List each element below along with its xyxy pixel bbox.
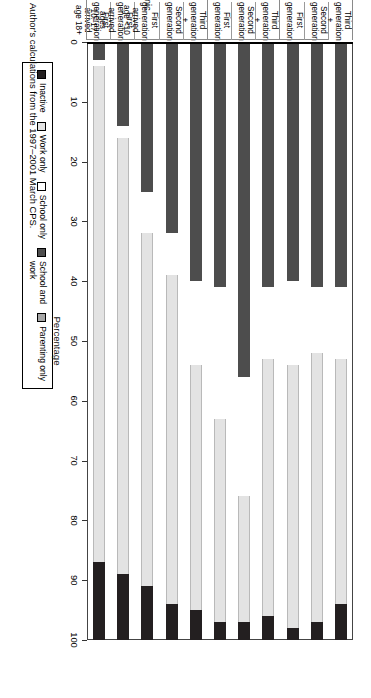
group-separator [207, 0, 208, 40]
category-label: Third generation + [257, 2, 279, 38]
bar-stack [287, 42, 299, 640]
category-rule [304, 2, 305, 40]
bar-segment-work [214, 419, 226, 622]
group-separator [279, 0, 280, 40]
group-separator [86, 0, 87, 40]
category-label: First generation [209, 2, 231, 38]
bar-stack [335, 42, 347, 640]
bar-segment-inactive [166, 604, 178, 640]
bar-segment-work [166, 275, 178, 604]
bar-segment-school [238, 377, 250, 497]
bar-segment-school [141, 192, 153, 234]
bar-stack [93, 42, 105, 640]
bar-segment-school [262, 287, 274, 359]
value-axis-tick [82, 341, 87, 342]
bar-segment-work [238, 496, 250, 622]
legend-label-schoolwork: School and work [28, 261, 47, 304]
value-axis-tick-label: 30 [69, 216, 80, 226]
bar-segment-school [335, 287, 347, 359]
bar-segment-schoolwork [262, 42, 274, 287]
bar-stack [166, 42, 178, 640]
value-axis-tick [82, 461, 87, 462]
bar-segment-inactive [141, 586, 153, 640]
bar-segment-school [117, 126, 129, 138]
value-axis-tick-label: 20 [69, 156, 80, 166]
value-axis-tick-label: 10 [69, 97, 80, 107]
bar-segment-inactive [93, 562, 105, 640]
bar-segment-inactive [117, 574, 129, 640]
value-axis-tick-label: 40 [69, 276, 80, 286]
bar-segment-schoolwork [141, 42, 153, 192]
legend-item-parenting: Parenting only [37, 313, 47, 381]
category-separator [208, 39, 232, 40]
category-label: First generation [281, 2, 303, 38]
value-axis-baseline [87, 42, 353, 44]
bar-segment-inactive [262, 616, 274, 640]
bar-stack [190, 42, 202, 640]
category-separator [256, 39, 280, 40]
bar-segment-schoolwork [117, 42, 129, 126]
bar-segment-inactive [190, 610, 202, 640]
category-separator [160, 39, 184, 40]
bar-segment-work [190, 365, 202, 610]
bar-segment-schoolwork [335, 42, 347, 287]
value-axis-tick-label: 100 [69, 632, 80, 648]
legend-swatch-parenting [37, 313, 46, 322]
group-separator [352, 0, 353, 40]
bar-segment-schoolwork [238, 42, 250, 377]
bar-segment-inactive [311, 622, 323, 640]
bar-segment-school [166, 233, 178, 275]
value-axis-tick [82, 520, 87, 521]
category-separator [135, 39, 159, 40]
bar-stack [141, 42, 153, 640]
legend-label-parenting: Parenting only [37, 326, 47, 381]
value-axis-tick-label: 90 [69, 575, 80, 585]
category-separator [280, 39, 304, 40]
bar-segment-school [287, 281, 299, 365]
value-axis-tick [82, 42, 87, 43]
category-separator [232, 39, 256, 40]
bar-segment-inactive [238, 622, 250, 640]
category-separator [111, 39, 135, 40]
bar-segment-work [287, 365, 299, 628]
value-axis-tick-label: 50 [69, 336, 80, 346]
bar-segment-schoolwork [311, 42, 323, 287]
category-rule [159, 2, 160, 40]
bar-segment-school [214, 287, 226, 419]
bar-stack [238, 42, 250, 640]
category-rule [231, 2, 232, 40]
category-label: Third generation + [330, 2, 352, 38]
bar-segment-work [117, 138, 129, 575]
bar-segment-inactive [214, 622, 226, 640]
value-axis-tick-label: 0 [69, 39, 80, 44]
value-axis-tick [82, 221, 87, 222]
bar-segment-schoolwork [190, 42, 202, 281]
bar-segment-schoolwork [93, 42, 105, 60]
bar-segment-schoolwork [287, 42, 299, 281]
bar-segment-inactive [287, 628, 299, 640]
value-axis-tick-label: 70 [69, 455, 80, 465]
figure-canvas: InactiveWork onlySchool onlySchool and w… [0, 0, 371, 698]
bar-stack [214, 42, 226, 640]
legend-item-schoolwork: School and work [28, 248, 47, 304]
bar-segment-schoolwork [166, 42, 178, 233]
bar-stack [311, 42, 323, 640]
value-axis-tick [82, 580, 87, 581]
bar-segment-work [262, 359, 274, 616]
source-note: SOURCES: Author's calculations from the … [28, 0, 39, 228]
bar-segment-inactive [335, 604, 347, 640]
legend-swatch-schoolwork [37, 248, 46, 257]
value-axis-tick-label: 80 [69, 515, 80, 525]
bar-segment-schoolwork [214, 42, 226, 287]
value-axis-tick [82, 102, 87, 103]
bar-stack [262, 42, 274, 640]
value-axis-tick [82, 162, 87, 163]
rotated-figure-root: InactiveWork onlySchool onlySchool and w… [0, 0, 371, 698]
bar-segment-school [190, 281, 202, 365]
category-separator [184, 39, 208, 40]
value-axis-tick [82, 281, 87, 282]
bar-segment-work [93, 66, 105, 562]
plot-area [87, 42, 353, 640]
category-label: Third generation + [185, 2, 207, 38]
value-axis-title: Percentage [52, 42, 63, 640]
